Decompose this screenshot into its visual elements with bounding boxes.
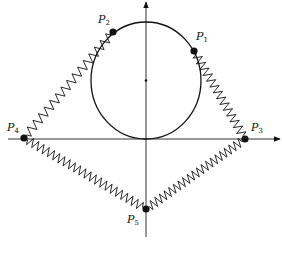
point-p5 bbox=[142, 205, 149, 212]
label-p2: P2 bbox=[98, 14, 110, 27]
springs-group bbox=[24, 32, 246, 210]
spring-p4-p5 bbox=[24, 138, 146, 209]
spring-p1-p3 bbox=[193, 51, 246, 139]
point-p3 bbox=[241, 135, 248, 142]
points-group bbox=[20, 28, 248, 212]
point-p2 bbox=[109, 28, 116, 35]
point-p1 bbox=[190, 47, 197, 54]
label-p5: P5 bbox=[127, 214, 139, 227]
label-p3: P3 bbox=[251, 122, 263, 135]
label-p4: P4 bbox=[7, 122, 19, 135]
circle-center-marker bbox=[145, 79, 148, 82]
spring-circle-diagram bbox=[0, 0, 282, 255]
label-p1: P1 bbox=[196, 31, 208, 44]
point-p4 bbox=[20, 134, 27, 141]
spring-p5-p3 bbox=[146, 139, 245, 210]
